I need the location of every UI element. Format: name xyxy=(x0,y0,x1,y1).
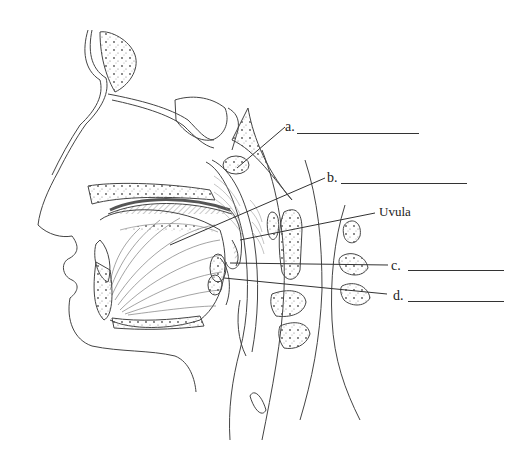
label-uvula: Uvula xyxy=(379,205,411,219)
nasal-cavity-roof xyxy=(108,94,214,148)
answer-blank-c[interactable] xyxy=(408,270,504,271)
external-nose xyxy=(38,172,77,258)
tongue xyxy=(100,210,225,328)
label-d: d. xyxy=(393,289,404,303)
label-a: a. xyxy=(285,120,295,134)
epiglottis xyxy=(238,300,266,413)
hard-palate xyxy=(88,183,232,214)
leader-line-d xyxy=(224,278,387,294)
sagittal-head-diagram xyxy=(0,0,529,468)
sphenoid-sinus xyxy=(175,97,238,150)
label-c: c. xyxy=(391,259,401,273)
spinous-processes xyxy=(339,221,370,305)
answer-blank-b[interactable] xyxy=(341,183,467,184)
label-b: b. xyxy=(327,171,338,185)
basiocciput xyxy=(232,108,292,200)
answer-blank-d[interactable] xyxy=(408,301,504,302)
answer-blank-a[interactable] xyxy=(297,133,419,134)
